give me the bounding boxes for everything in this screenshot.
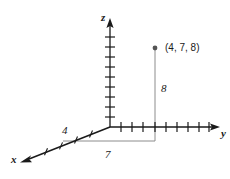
y-axis [110,122,220,132]
y-axis-label: y [219,127,226,139]
x-axis-label: x [10,153,17,165]
y-measure-label: 7 [105,148,111,160]
data-point-dot [153,46,158,51]
x-measure-label: 4 [62,124,68,136]
coordinate-figure: z y x (4, 7, 8) 4 7 8 [0,0,230,179]
z-axis-label: z [100,11,106,23]
point-coordinate-label: (4, 7, 8) [165,42,199,53]
z-measure-label: 8 [161,82,167,94]
plot-canvas: z y x (4, 7, 8) 4 7 8 [0,0,230,179]
z-axis [105,18,115,127]
x-axis-line [29,127,110,159]
